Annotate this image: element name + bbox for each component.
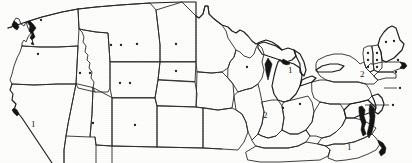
dot-oregon bbox=[37, 53, 39, 55]
state-pennsylvania bbox=[312, 80, 372, 104]
olympic-peninsula-shading bbox=[12, 21, 19, 30]
label-carolina: 1 bbox=[347, 143, 352, 152]
state-nevada bbox=[66, 84, 93, 137]
dot-montana-c bbox=[136, 43, 138, 45]
dot-idaho-a bbox=[79, 72, 81, 74]
state-connecticut bbox=[374, 72, 396, 80]
label-michigan: 1 bbox=[288, 66, 293, 75]
label-california: 1 bbox=[31, 120, 36, 129]
state-idaho bbox=[79, 29, 110, 92]
dot-indiana bbox=[282, 107, 284, 109]
label-newyork: 2 bbox=[360, 70, 365, 79]
state-missouri bbox=[203, 108, 248, 150]
outer-banks-shading bbox=[378, 140, 386, 156]
state-montana bbox=[78, 3, 160, 62]
lake-michigan-shading bbox=[265, 58, 272, 80]
state-illinois bbox=[234, 84, 264, 140]
state-michigan-lower bbox=[272, 60, 302, 102]
dot-delmarva bbox=[392, 104, 394, 106]
state-kansas bbox=[157, 106, 203, 148]
us-outline-map: 11221 bbox=[0, 0, 412, 163]
dot-northdakota bbox=[175, 43, 177, 45]
dot-utah bbox=[92, 122, 94, 124]
dot-southdakota bbox=[175, 70, 177, 72]
state-new-mexico bbox=[96, 145, 157, 163]
chesapeake-bay-shading bbox=[359, 106, 366, 136]
dot-vermont-c bbox=[367, 66, 369, 68]
dot-massachusetts bbox=[397, 59, 399, 61]
dot-maine-a bbox=[385, 41, 387, 43]
state-nebraska bbox=[155, 80, 197, 107]
dot-nh-b bbox=[376, 59, 378, 61]
state-north-carolina bbox=[326, 134, 380, 161]
dot-newjersey bbox=[399, 87, 401, 89]
dot-connecticut bbox=[395, 71, 397, 73]
northern-border-line bbox=[8, 2, 282, 50]
puget-sound-shading bbox=[27, 21, 36, 45]
state-ohio bbox=[282, 96, 314, 134]
dot-nh-a bbox=[376, 52, 378, 54]
state-massachusetts bbox=[366, 62, 404, 72]
lake-ontario-outline bbox=[316, 64, 344, 72]
state-arizona bbox=[64, 136, 96, 163]
lake-huron-outline bbox=[294, 50, 306, 76]
state-kentucky bbox=[252, 130, 310, 148]
dot-wyoming-a bbox=[119, 82, 121, 84]
dot-montana-a bbox=[110, 44, 112, 46]
state-north-dakota bbox=[156, 2, 196, 62]
dot-idaho-b bbox=[89, 72, 91, 74]
dot-wyoming-b bbox=[129, 82, 131, 84]
state-new-york bbox=[316, 54, 378, 84]
state-oregon bbox=[10, 46, 78, 85]
state-west-virginia bbox=[306, 102, 346, 138]
dot-vermont-a bbox=[367, 52, 369, 54]
dot-ohio bbox=[299, 103, 301, 105]
dot-maine-b bbox=[393, 40, 395, 42]
state-tennessee bbox=[246, 142, 330, 162]
state-colorado bbox=[112, 98, 157, 147]
state-boundaries bbox=[8, 2, 407, 163]
map-svg-canvas bbox=[0, 0, 412, 163]
lake-erie-outline bbox=[300, 76, 316, 86]
sf-bay-shading bbox=[12, 108, 19, 116]
delmarva-peninsula bbox=[367, 104, 375, 138]
state-south-dakota bbox=[158, 62, 196, 82]
dot-washington bbox=[40, 19, 42, 21]
label-illinois: 2 bbox=[263, 111, 268, 120]
state-maine bbox=[378, 26, 404, 62]
dot-vermont-b bbox=[367, 59, 369, 61]
cape-cod-shading bbox=[400, 62, 407, 69]
dot-wisconsin bbox=[246, 66, 248, 68]
state-utah bbox=[90, 88, 112, 146]
state-wyoming bbox=[110, 62, 160, 98]
dot-nh-c bbox=[376, 66, 378, 68]
dot-montana-b bbox=[120, 44, 122, 46]
dot-colorado bbox=[134, 124, 136, 126]
